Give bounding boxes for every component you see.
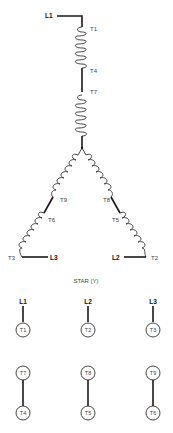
- jumper-T9-T6: T9 T6: [146, 366, 160, 420]
- label-T6: T6: [48, 217, 56, 223]
- coil-T5: [120, 212, 146, 257]
- diagram-title: STAR (Y): [73, 278, 98, 284]
- svg-text:T9: T9: [150, 370, 156, 376]
- jumper-T8-T5: T8 T5: [81, 366, 95, 420]
- coil-T9: [52, 148, 82, 197]
- svg-text:T8: T8: [85, 370, 91, 376]
- coil-T1-T4: [75, 27, 86, 68]
- svg-text:T2: T2: [85, 327, 91, 333]
- label-L3-top: L3: [50, 254, 58, 261]
- label-T7: T7: [90, 89, 98, 95]
- svg-text:T6: T6: [150, 410, 156, 416]
- star-wiring-diagram: L1 T1 T4 T7 T9 T6 T3 L3 T8 T5 L2 T2 STAR…: [0, 0, 173, 433]
- link-T9-T6: [44, 197, 53, 213]
- label-T1: T1: [90, 26, 98, 32]
- label-T5: T5: [112, 217, 120, 223]
- label-L2: L2: [84, 298, 92, 305]
- line-terminal-L1-T1: L1 T1: [16, 298, 30, 337]
- label-L2-top: L2: [112, 254, 120, 261]
- svg-text:T7: T7: [20, 370, 26, 376]
- svg-text:T1: T1: [20, 327, 26, 333]
- label-L1-top: L1: [45, 12, 53, 19]
- label-T3: T3: [8, 255, 16, 261]
- coil-T6: [19, 212, 44, 257]
- jumper-T7-T4: T7 T4: [16, 366, 30, 420]
- label-T9: T9: [60, 197, 68, 203]
- label-T2: T2: [151, 255, 159, 261]
- line-terminal-L3-T3: L3 T3: [146, 298, 160, 337]
- coil-T7: [75, 95, 86, 136]
- line-terminal-L2-T2: L2 T2: [81, 298, 95, 337]
- svg-text:T4: T4: [20, 410, 26, 416]
- link-T8-T5: [111, 197, 120, 213]
- svg-text:T3: T3: [150, 327, 156, 333]
- lead-L1: [57, 16, 82, 27]
- label-L1: L1: [19, 298, 27, 305]
- svg-text:T5: T5: [85, 410, 91, 416]
- coil-T8: [82, 148, 112, 197]
- label-L3: L3: [149, 298, 157, 305]
- label-T4: T4: [90, 68, 98, 74]
- label-T8: T8: [103, 197, 111, 203]
